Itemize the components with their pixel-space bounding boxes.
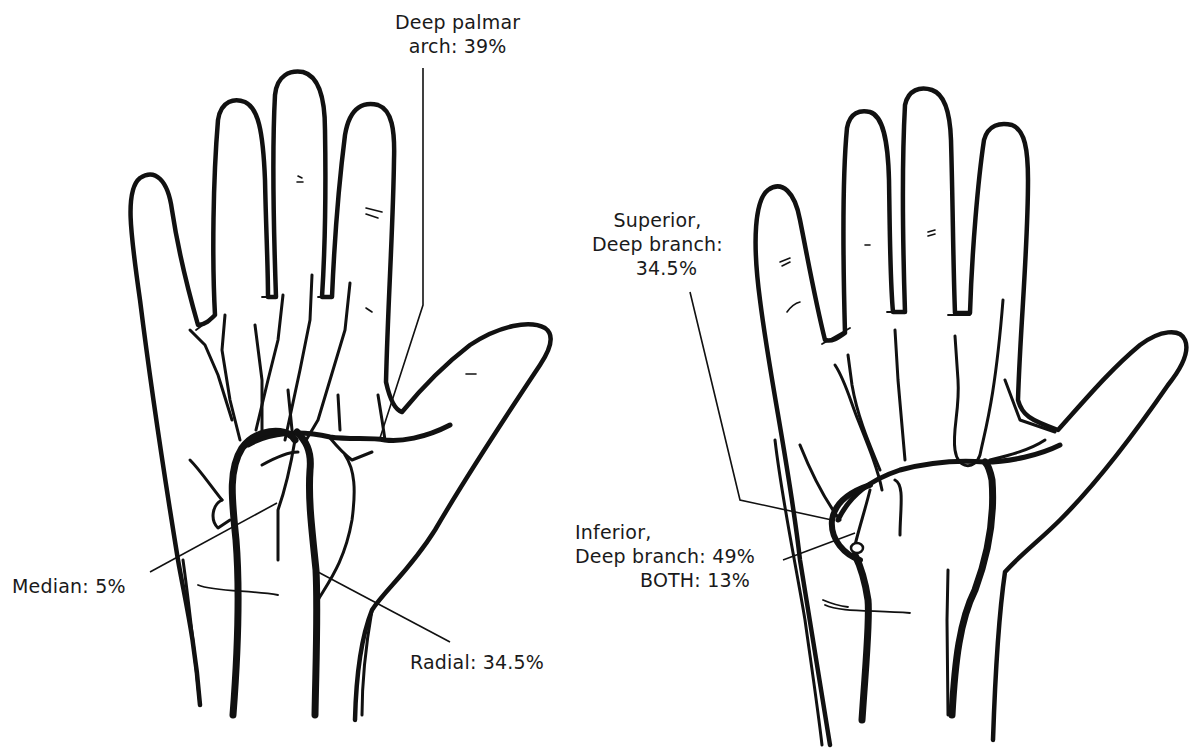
right-radial-trunk — [952, 462, 993, 715]
label-inferior-deep-branch: Inferior, Deep branch: 49% BOTH: 13% — [575, 520, 755, 592]
label-radial-text: Radial: 34.5% — [410, 650, 544, 674]
leader-radial — [318, 572, 450, 642]
label-superior-line3: 34.5% — [592, 256, 723, 280]
vessel-cut-end — [851, 543, 863, 553]
label-inferior-line1: Inferior, — [575, 520, 755, 544]
leader-superior-deep-branch — [690, 292, 832, 520]
right-ulnar-side-trunk — [855, 555, 869, 720]
label-radial: Radial: 34.5% — [410, 650, 544, 674]
label-superior-line1: Superior, — [592, 208, 723, 232]
label-deep-palmar-arch-line1: Deep palmar — [395, 10, 520, 34]
right-hand-outline — [756, 89, 1187, 745]
label-superior-line2: Deep branch: — [592, 232, 723, 256]
label-superior-deep-branch: Superior, Deep branch: 34.5% — [592, 208, 723, 280]
hands-illustration — [0, 0, 1190, 751]
label-inferior-line3: BOTH: 13% — [575, 568, 755, 592]
left-hand-outline — [131, 72, 551, 720]
label-median: Median: 5% — [12, 574, 126, 598]
label-deep-palmar-arch: Deep palmar arch: 39% — [395, 10, 520, 58]
right-hand — [756, 89, 1187, 745]
figure-canvas: Deep palmar arch: 39% Median: 5% Radial:… — [0, 0, 1190, 751]
label-median-text: Median: 5% — [12, 574, 126, 598]
left-hand — [131, 72, 551, 720]
left-radial-artery — [297, 432, 317, 715]
left-median-artery — [232, 431, 295, 715]
label-deep-palmar-arch-line2: arch: 39% — [395, 34, 520, 58]
label-inferior-line2: Deep branch: 49% — [575, 544, 755, 568]
